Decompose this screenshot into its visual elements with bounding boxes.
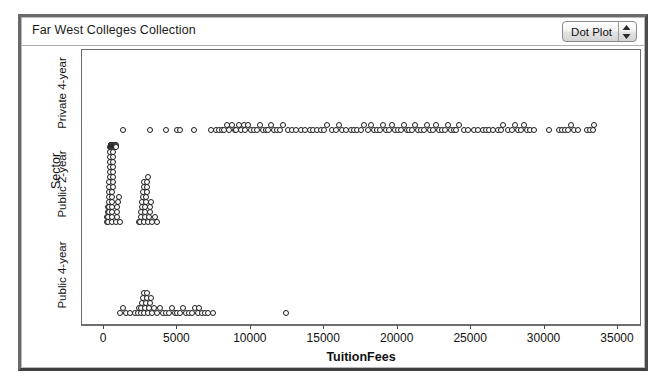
- collection-title: Far West Colleges Collection: [32, 23, 196, 37]
- x-axis-tick-label: 5000: [163, 331, 190, 345]
- x-axis-line: [81, 325, 641, 326]
- data-point[interactable]: [191, 127, 197, 133]
- plot-area: [81, 49, 641, 325]
- data-point[interactable]: [148, 199, 154, 205]
- data-point[interactable]: [145, 174, 151, 180]
- x-axis-tick-label: 0: [100, 331, 107, 345]
- window-titlebar: Far West Colleges Collection Dot Plot: [22, 18, 644, 46]
- data-point[interactable]: [590, 127, 596, 133]
- data-point[interactable]: [163, 127, 169, 133]
- x-axis-tick: [617, 325, 618, 329]
- data-point[interactable]: [148, 295, 154, 301]
- data-point[interactable]: [386, 127, 392, 133]
- updown-chevron-icon: [618, 22, 634, 41]
- x-axis-tick: [470, 325, 471, 329]
- data-point[interactable]: [177, 127, 183, 133]
- data-point[interactable]: [277, 127, 283, 133]
- x-axis-tick: [250, 325, 251, 329]
- window-inner: Far West Colleges Collection Dot Plot: [21, 17, 645, 368]
- x-axis-title: TuitionFees: [81, 350, 641, 364]
- data-point[interactable]: [575, 127, 581, 133]
- x-axis-tick: [397, 325, 398, 329]
- x-axis-tick: [103, 325, 104, 329]
- plot-region: Sector Private 4-yearPublic 2-yearPublic…: [22, 46, 644, 367]
- plot-type-popup-label: Dot Plot: [571, 26, 618, 38]
- y-axis-category-label: Private 4-year: [56, 47, 68, 138]
- plot-type-popup-button[interactable]: Dot Plot: [562, 21, 637, 42]
- data-point[interactable]: [147, 127, 153, 133]
- x-axis-tick: [176, 325, 177, 329]
- data-point[interactable]: [283, 310, 289, 316]
- x-axis-tick-label: 20000: [380, 331, 413, 345]
- data-point[interactable]: [591, 122, 597, 128]
- data-point[interactable]: [453, 127, 459, 133]
- data-point[interactable]: [442, 127, 448, 133]
- x-axis-tick: [323, 325, 324, 329]
- data-point[interactable]: [113, 144, 119, 150]
- data-point[interactable]: [546, 127, 552, 133]
- data-point[interactable]: [116, 194, 122, 200]
- data-point[interactable]: [358, 127, 364, 133]
- app-root: Far West Colleges Collection Dot Plot: [0, 0, 663, 388]
- data-point[interactable]: [531, 127, 537, 133]
- x-axis-tick-label: 35000: [600, 331, 633, 345]
- y-axis-category-label: Public 4-year: [56, 230, 68, 321]
- data-point[interactable]: [154, 219, 160, 225]
- data-point[interactable]: [498, 127, 504, 133]
- x-axis-tick: [544, 325, 545, 329]
- data-point[interactable]: [117, 219, 123, 225]
- x-axis-tick-label: 30000: [527, 331, 560, 345]
- x-axis-tick-label: 10000: [233, 331, 266, 345]
- data-point[interactable]: [254, 127, 260, 133]
- x-axis-tick-label: 25000: [453, 331, 486, 345]
- data-point[interactable]: [210, 310, 216, 316]
- y-axis-category-label: Public 2-year: [56, 138, 68, 229]
- x-axis-tick-label: 15000: [307, 331, 340, 345]
- data-point[interactable]: [398, 127, 404, 133]
- data-point[interactable]: [226, 127, 232, 133]
- data-point[interactable]: [120, 127, 126, 133]
- data-point[interactable]: [321, 127, 327, 133]
- plot-window: Far West Colleges Collection Dot Plot: [18, 14, 648, 371]
